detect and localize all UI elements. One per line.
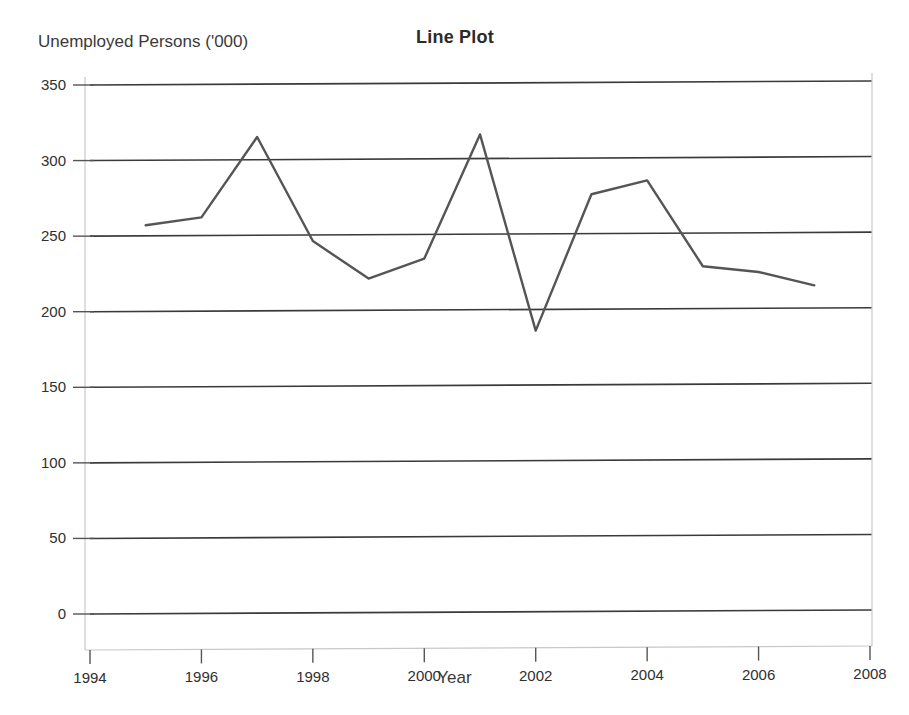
y-tick-label: 350 — [41, 76, 66, 93]
gridline — [90, 610, 872, 614]
y-tick-label: 100 — [41, 454, 66, 471]
gridline — [90, 383, 872, 387]
gridline — [90, 232, 872, 236]
gridline — [90, 308, 872, 312]
gridline — [90, 534, 872, 538]
gridline — [90, 157, 872, 161]
y-gridlines — [90, 81, 872, 614]
y-tick-label: 200 — [41, 303, 66, 320]
y-tick-label: 0 — [58, 605, 66, 622]
x-axis-title: Year — [0, 668, 909, 688]
y-tick-labels: 050100150200250300350 — [41, 76, 66, 622]
y-tick-marks — [73, 85, 94, 614]
x-tick-marks — [90, 646, 870, 664]
y-tick-label: 250 — [41, 227, 66, 244]
y-tick-label: 150 — [41, 378, 66, 395]
gridline — [90, 459, 872, 463]
y-tick-label: 50 — [49, 529, 66, 546]
y-tick-label: 300 — [41, 152, 66, 169]
line-chart: Unemployed Persons ('000) Line Plot 0501… — [0, 0, 909, 715]
gridline — [90, 81, 872, 85]
plot-area: 050100150200250300350 199419961998200020… — [0, 0, 909, 715]
